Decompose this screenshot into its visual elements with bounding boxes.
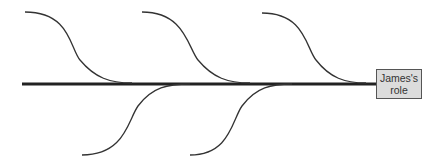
bone-top-1 <box>25 12 132 83</box>
fishbone-head-box: James's role <box>376 69 422 99</box>
bone-bottom-2 <box>190 84 292 155</box>
bone-bottom-1 <box>82 84 190 155</box>
bone-top-3 <box>262 13 366 83</box>
head-label-line2: role <box>390 84 408 96</box>
head-label-line1: James's <box>380 72 418 84</box>
bone-top-2 <box>142 12 250 83</box>
